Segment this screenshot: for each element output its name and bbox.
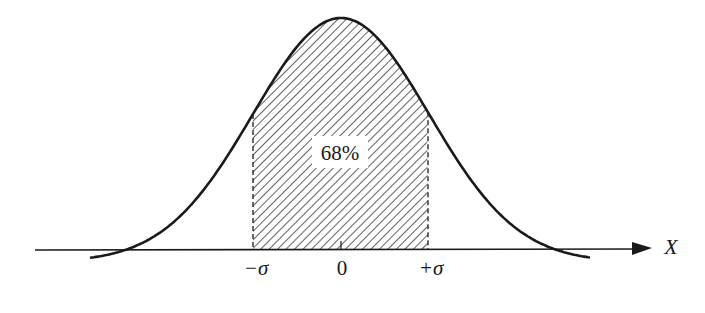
tick-label-minus-sigma: −σ (244, 256, 270, 280)
tick-label-plus-sigma: +σ (419, 256, 445, 280)
diagram-canvas: 68% X −σ 0 +σ (0, 0, 705, 313)
shaded-area-one-sigma (253, 18, 428, 250)
x-axis-label: X (663, 234, 679, 259)
area-percentage-label: 68% (321, 141, 360, 165)
normal-distribution-diagram: 68% X −σ 0 +σ (0, 0, 705, 313)
x-axis (35, 249, 640, 250)
x-axis-arrowhead-icon (632, 242, 652, 255)
tick-label-zero: 0 (337, 256, 348, 280)
